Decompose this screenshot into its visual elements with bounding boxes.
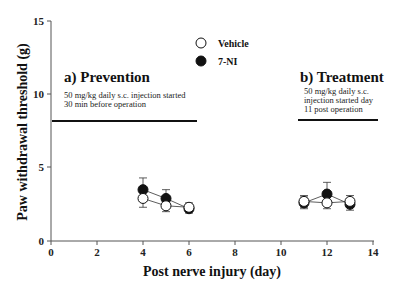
y-tick-label: 5 [39, 161, 45, 173]
y-tick-label: 15 [33, 15, 45, 27]
axes [47, 21, 374, 245]
legend-label-7ni: 7-NI [218, 56, 238, 67]
x-tick-label: 10 [276, 246, 288, 258]
legend-label-vehicle: Vehicle [218, 38, 249, 49]
open-circle-marker-icon [322, 198, 332, 208]
y-axis-title: Paw withdrawal threshold (g) [15, 43, 31, 221]
x-tick-label: 12 [322, 246, 334, 258]
x-tick-label: 6 [186, 246, 192, 258]
chart: 15 10 5 0 0 2 4 6 8 10 12 14 Post nerve … [0, 0, 398, 294]
panel-a-note-line2: 30 min before operation [64, 99, 147, 109]
open-circle-marker-icon [138, 193, 148, 203]
open-circle-marker-icon [161, 201, 171, 211]
x-tick-label: 8 [232, 246, 238, 258]
open-circle-marker-icon [299, 196, 309, 206]
open-circle-marker-icon [345, 196, 355, 206]
filled-circle-icon [196, 56, 206, 66]
x-tick-label: 4 [140, 246, 146, 258]
y-tick-label: 10 [33, 88, 45, 100]
panel-a-title: a) Prevention [64, 69, 151, 86]
x-tick-label: 2 [94, 246, 100, 258]
panel-b-title: b) Treatment [300, 69, 384, 86]
open-circle-marker-icon [184, 202, 194, 212]
x-tick-label: 0 [48, 246, 54, 258]
y-tick-label: 0 [39, 235, 45, 247]
panel-b-note-line3: 11 post operation [304, 104, 363, 114]
panel-a-annotation: a) Prevention 50 mg/kg daily s.c. inject… [52, 69, 197, 121]
panel-b-annotation: b) Treatment 50 mg/kg daily s.c. injecti… [298, 69, 384, 120]
legend: Vehicle 7-NI [196, 38, 249, 67]
open-circle-icon [196, 38, 206, 48]
x-tick-label: 14 [368, 246, 380, 258]
series-layer [138, 178, 355, 214]
x-axis-title: Post nerve injury (day) [143, 264, 281, 280]
